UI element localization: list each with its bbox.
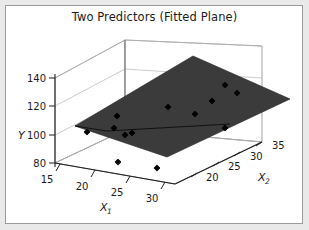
y-axis-title: Y (18, 129, 26, 142)
x1-tick-label-25: 25 (111, 187, 124, 198)
x2-tick-label-20: 20 (206, 172, 219, 183)
chart-screenshot: Two Predictors (Fitted Plane) (0, 0, 309, 230)
x1-tick-label-30: 30 (146, 193, 159, 204)
x1-tick-label-20: 20 (76, 181, 89, 192)
x1-tick-30 (161, 182, 165, 189)
x1-tick-15 (56, 164, 60, 171)
chart-canvas: 140 120 100 80 Y 15 20 25 30 X 1 (0, 0, 309, 230)
x1-tick-label-15: 15 (41, 174, 54, 185)
x2-tick-label-35: 35 (272, 140, 285, 151)
x1-tick-25 (126, 176, 130, 183)
x2-axis-subscript: 2 (265, 177, 270, 186)
x2-tick-label-30: 30 (250, 151, 263, 162)
scatter3d-plot: 140 120 100 80 Y 15 20 25 30 X 1 (0, 0, 309, 230)
y-tick-label-100: 100 (27, 130, 46, 141)
y-tick-label-140: 140 (27, 73, 46, 84)
x1-tick-20 (91, 170, 95, 177)
y-axis: 140 120 100 80 Y (18, 73, 55, 169)
x2-tick-label-25: 25 (228, 161, 241, 172)
y-tick-label-80: 80 (33, 158, 46, 169)
x1-axis-subscript: 1 (107, 207, 112, 216)
y-tick-label-120: 120 (27, 101, 46, 112)
